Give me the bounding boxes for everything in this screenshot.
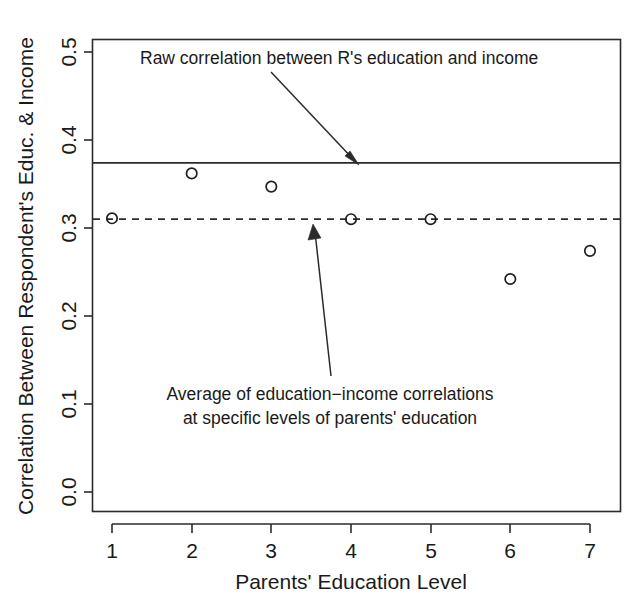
chart-figure: 0.0 0.1 0.2 0.3 0.4 0.5 Correlation Betw…	[0, 0, 640, 595]
x-tick-label-5: 5	[425, 539, 437, 562]
x-tick-label-1: 1	[106, 539, 118, 562]
y-tick-label-1: 0.1	[57, 389, 80, 418]
y-axis-title: Correlation Between Respondent's Educ. &…	[14, 37, 37, 515]
x-tick-label-6: 6	[504, 539, 516, 562]
y-tick-label-2: 0.2	[57, 301, 80, 330]
x-tick-label-2: 2	[186, 539, 198, 562]
y-tick-label-5: 0.5	[57, 37, 80, 66]
x-tick-label-7: 7	[584, 539, 596, 562]
y-tick-label-4: 0.4	[57, 125, 80, 155]
x-axis-title: Parents' Education Level	[235, 570, 467, 593]
average-correlation-annotation-line2: at specific levels of parents' education	[183, 408, 477, 428]
raw-correlation-annotation-text: Raw correlation between R's education an…	[140, 48, 538, 68]
scatter-plot-canvas: 0.0 0.1 0.2 0.3 0.4 0.5 Correlation Betw…	[0, 0, 640, 595]
y-tick-label-3: 0.3	[57, 213, 80, 242]
x-tick-label-4: 4	[345, 539, 357, 562]
chart-background	[0, 0, 640, 595]
x-tick-label-3: 3	[265, 539, 277, 562]
average-correlation-annotation-line1: Average of education−income correlations	[166, 384, 493, 404]
y-tick-label-0: 0.0	[57, 477, 80, 506]
